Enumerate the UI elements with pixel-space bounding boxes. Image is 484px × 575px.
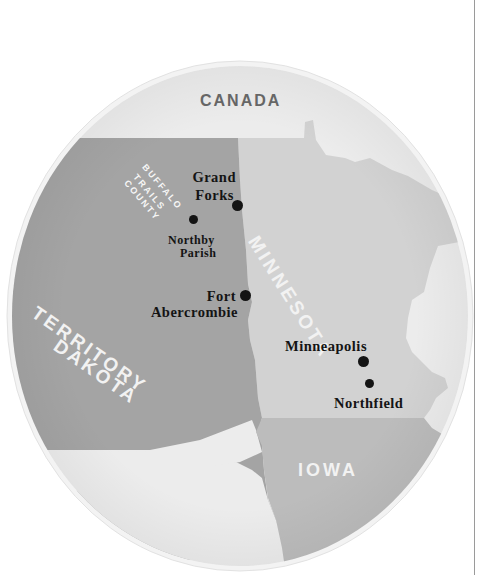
city-grand-forks-label: Grand Forks bbox=[188, 170, 236, 203]
map-circle bbox=[0, 0, 484, 575]
city-minneapolis-label: Minneapolis bbox=[285, 339, 367, 354]
city-northfield-label: Northfield bbox=[334, 396, 403, 411]
city-northby-parish-line2: Parish bbox=[168, 247, 216, 260]
city-northby-parish-line1: Northby bbox=[168, 234, 216, 247]
city-grand-forks-marker bbox=[232, 200, 243, 211]
city-northby-parish-marker bbox=[189, 215, 198, 224]
city-fort-abercrombie-marker bbox=[240, 290, 251, 301]
city-northfield-marker bbox=[365, 379, 374, 388]
city-fort-abercrombie-line1: Fort bbox=[138, 289, 238, 304]
city-minneapolis-marker bbox=[358, 356, 369, 367]
city-fort-abercrombie-label: Fort Abercrombie bbox=[138, 289, 238, 320]
city-grand-forks-line1: Grand bbox=[188, 170, 236, 185]
city-grand-forks-line2: Forks bbox=[188, 188, 236, 203]
canada-label: CANADA bbox=[200, 92, 281, 110]
city-fort-abercrombie-line2: Abercrombie bbox=[138, 305, 238, 320]
city-northby-parish-label: Northby Parish bbox=[168, 234, 216, 259]
iowa-label: IOWA bbox=[298, 460, 358, 481]
